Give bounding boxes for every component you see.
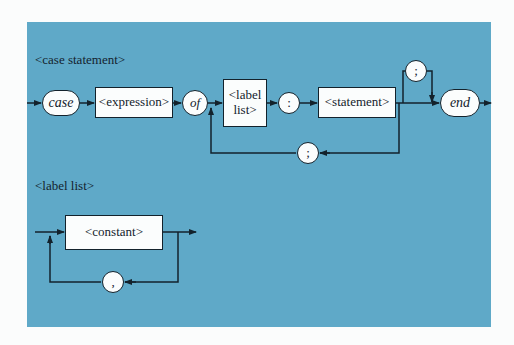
label-list-node-line2: list> — [233, 103, 256, 118]
case-statement-title: <case statement> — [35, 52, 125, 68]
loop-semicolon-node: ; — [297, 142, 319, 164]
label-list-node-line1: <label — [229, 88, 262, 103]
optional-semicolon-node: ; — [405, 60, 427, 82]
statement-node: <statement> — [318, 87, 396, 118]
end-keyword-node: end — [440, 89, 480, 117]
constant-node: <constant> — [65, 215, 163, 250]
colon-node: : — [278, 92, 300, 114]
of-keyword-node: of — [182, 90, 208, 116]
label-list-title: <label list> — [35, 178, 94, 194]
case-keyword-node: case — [42, 90, 80, 116]
label-list-node: <label list> — [223, 79, 267, 127]
comma-node: , — [102, 271, 124, 293]
expression-node: <expression> — [95, 87, 173, 118]
